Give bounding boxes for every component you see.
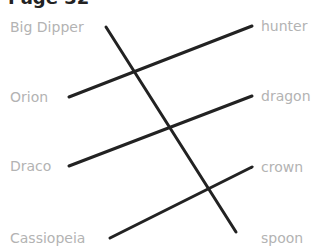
line-orion-hunter <box>69 26 252 97</box>
connection-lines <box>0 0 323 251</box>
line-cassiopeia-crown <box>110 167 252 238</box>
line-draco-dragon <box>69 96 252 166</box>
